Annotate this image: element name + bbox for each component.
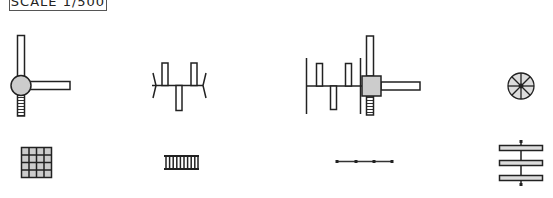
- manifold-with-square-tee-icon: [307, 36, 421, 115]
- triple-bar-rack-icon: [500, 140, 543, 186]
- pipe-manifold-open-icon: [152, 63, 206, 111]
- dotted-chain-line-icon: [336, 160, 394, 163]
- tee-valve-round-icon: [11, 36, 70, 117]
- spoked-wheel-icon: [508, 73, 534, 99]
- grid-tile-icon: [22, 148, 52, 178]
- symbol-canvas: [0, 0, 553, 198]
- ladder-rail-icon: [164, 156, 199, 169]
